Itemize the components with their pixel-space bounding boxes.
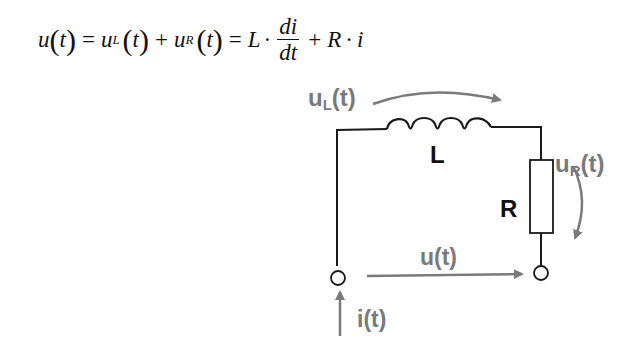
terminal-right <box>534 266 548 280</box>
right-top-wire <box>491 127 541 160</box>
label-inductor-L: L <box>430 141 445 169</box>
rl-circuit <box>0 0 638 353</box>
u-arrow <box>367 274 522 276</box>
label-uL: uL(t) <box>308 84 356 113</box>
label-i: i(t) <box>357 306 386 333</box>
left-wire <box>337 129 387 266</box>
resistor-body <box>530 160 553 233</box>
label-uR: uR(t) <box>555 150 605 179</box>
uL-arrow <box>373 92 500 104</box>
label-resistor-R: R <box>500 195 517 223</box>
label-u: u(t) <box>420 244 457 271</box>
terminal-left <box>331 271 345 285</box>
inductor-coil <box>387 118 491 129</box>
